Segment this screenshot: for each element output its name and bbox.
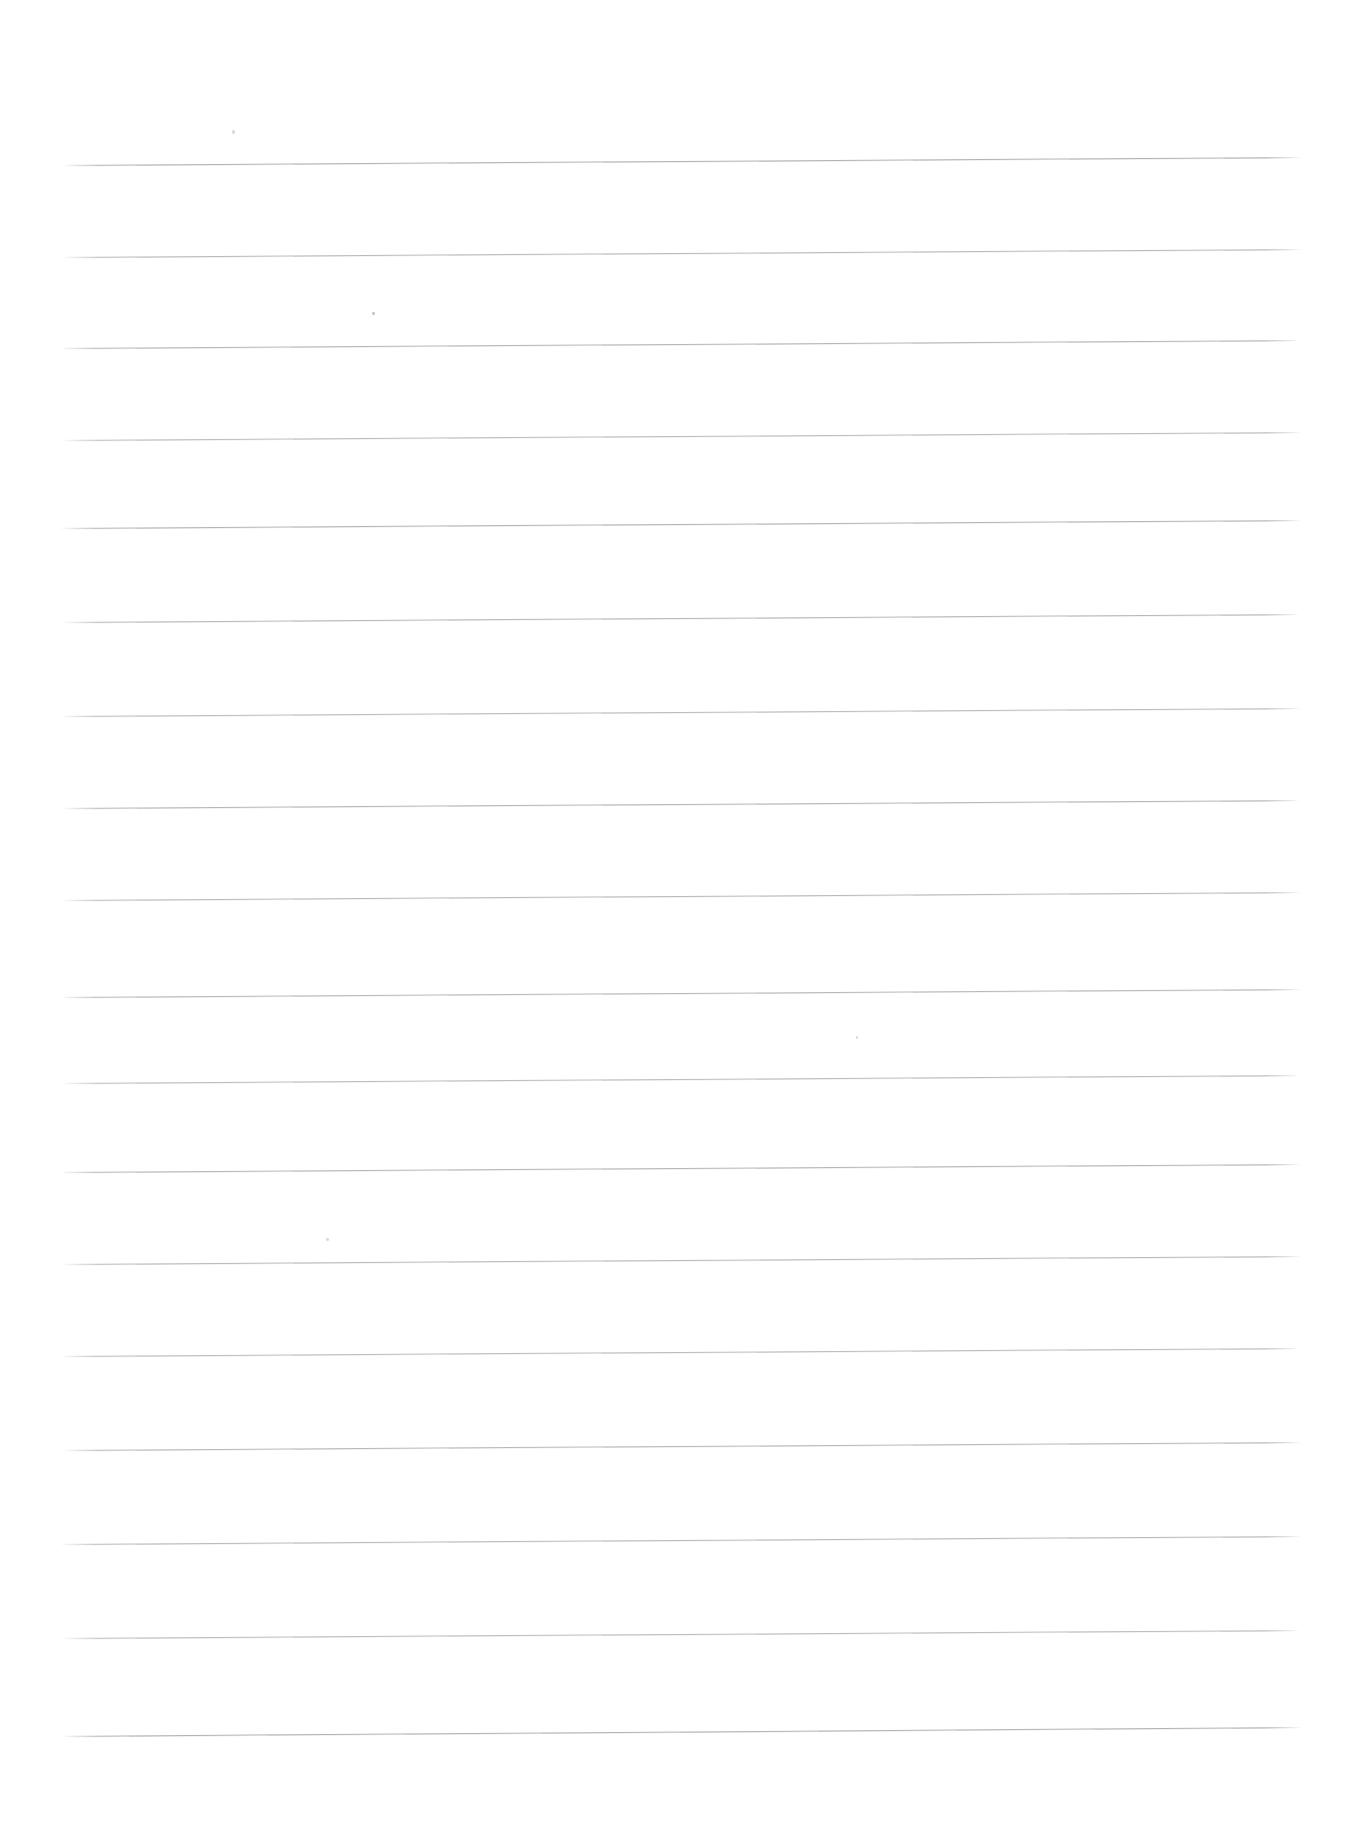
ruled-line [60,340,1300,349]
ruled-line [62,1442,1302,1451]
ruled-line [62,800,1300,809]
ruled-line [60,989,1302,998]
scanned-page [0,0,1364,1841]
ruled-line [62,1727,1302,1737]
scan-speck [856,1036,858,1039]
ruled-line [60,1536,1302,1545]
ruled-line [60,1164,1302,1173]
ruled-line [60,1348,1300,1357]
ruled-line [62,614,1300,623]
scan-speck [372,312,375,315]
scan-speck [232,130,235,134]
ruled-line [62,1075,1300,1084]
scan-speck [326,1238,329,1241]
ruled-line [62,1630,1300,1639]
ruled-line [62,249,1302,258]
ruled-line [60,708,1302,717]
ruled-line [62,1256,1302,1265]
ruled-line [62,432,1302,441]
ruled-line [62,892,1302,901]
ruled-line [62,157,1302,166]
ruled-line [60,520,1302,529]
ruled-lines-layer [0,0,1364,1841]
